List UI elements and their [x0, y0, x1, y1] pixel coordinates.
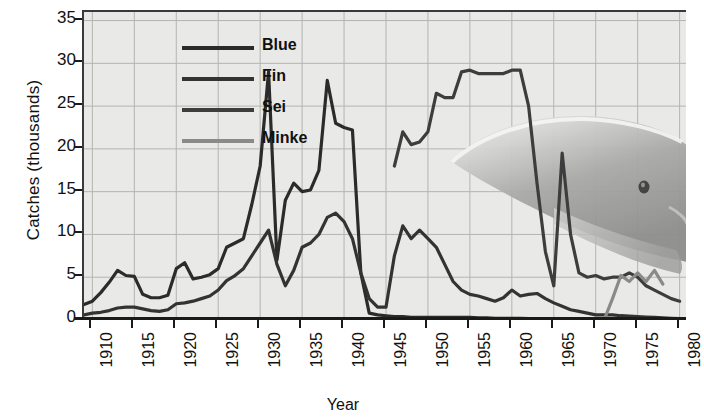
- legend-label-sei: Sei: [262, 98, 286, 116]
- x-tick-label-1925: 1925: [224, 332, 242, 388]
- x-tick-mark-1960: [509, 319, 511, 328]
- x-tick-label-1920: 1920: [182, 332, 200, 388]
- x-tick-label-1960: 1960: [518, 332, 536, 388]
- y-tick-label-10: 10: [42, 222, 76, 239]
- x-tick-label-1930: 1930: [266, 332, 284, 388]
- x-tick-mark-1955: [467, 319, 469, 328]
- legend-swatch-fin: [182, 77, 254, 81]
- x-tick-mark-1970: [593, 319, 595, 328]
- x-tick-mark-1945: [383, 319, 385, 328]
- x-tick-label-1945: 1945: [392, 332, 410, 388]
- x-tick-mark-1935: [299, 319, 301, 328]
- legend-swatch-minke: [182, 139, 254, 143]
- x-tick-label-1955: 1955: [476, 332, 494, 388]
- x-tick-mark-1910: [89, 319, 91, 328]
- y-axis-ticks: 05101520253035: [36, 0, 76, 417]
- x-tick-mark-1925: [215, 319, 217, 328]
- legend-label-fin: Fin: [262, 67, 286, 85]
- x-tick-mark-1915: [131, 319, 133, 328]
- legend-swatch-blue: [182, 46, 254, 50]
- x-tick-mark-1965: [551, 319, 553, 328]
- x-tick-mark-1930: [257, 319, 259, 328]
- x-tick-label-1915: 1915: [140, 332, 158, 388]
- x-tick-mark-1975: [635, 319, 637, 328]
- x-tick-mark-1920: [173, 319, 175, 328]
- x-tick-label-1940: 1940: [350, 332, 368, 388]
- y-tick-label-25: 25: [42, 94, 76, 111]
- legend-item-minke: Minke: [182, 127, 342, 158]
- data-series: [84, 12, 686, 318]
- y-tick-label-30: 30: [42, 51, 76, 68]
- legend-swatch-sei: [182, 108, 254, 112]
- x-tick-label-1975: 1975: [644, 332, 662, 388]
- x-tick-label-1950: 1950: [434, 332, 452, 388]
- x-tick-label-1910: 1910: [98, 332, 116, 388]
- x-tick-label-1965: 1965: [560, 332, 578, 388]
- x-tick-label-1935: 1935: [308, 332, 326, 388]
- legend-item-fin: Fin: [182, 65, 342, 96]
- x-tick-mark-1950: [425, 319, 427, 328]
- legend: Blue Fin Sei Minke: [182, 34, 342, 158]
- x-tick-label-1980: 1980: [686, 332, 704, 388]
- x-tick-mark-1980: [677, 319, 679, 328]
- y-tick-label-15: 15: [42, 180, 76, 197]
- legend-item-sei: Sei: [182, 96, 342, 127]
- x-tick-mark-1940: [341, 319, 343, 328]
- y-tick-label-35: 35: [42, 9, 76, 26]
- x-tick-label-1970: 1970: [602, 332, 620, 388]
- legend-label-minke: Minke: [262, 129, 307, 147]
- legend-label-blue: Blue: [262, 36, 297, 54]
- plot-area: Blue Fin Sei Minke: [82, 10, 686, 318]
- legend-item-blue: Blue: [182, 34, 342, 65]
- x-axis-title: Year: [0, 396, 686, 414]
- y-tick-label-5: 5: [42, 265, 76, 282]
- y-tick-label-0: 0: [42, 308, 76, 325]
- y-tick-label-20: 20: [42, 137, 76, 154]
